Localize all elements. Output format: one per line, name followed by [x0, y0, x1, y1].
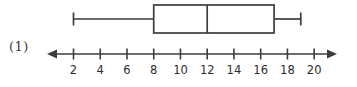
svg-text:14: 14 [227, 63, 242, 77]
svg-text:12: 12 [200, 63, 215, 77]
svg-text:20: 20 [307, 63, 322, 77]
boxplot-canvas: 2468101214161820 [0, 0, 357, 87]
svg-text:16: 16 [253, 63, 268, 77]
svg-text:8: 8 [150, 63, 157, 77]
svg-text:2: 2 [70, 63, 77, 77]
svg-text:18: 18 [280, 63, 295, 77]
svg-text:4: 4 [97, 63, 104, 77]
svg-text:6: 6 [123, 63, 130, 77]
svg-text:10: 10 [173, 63, 188, 77]
boxplot-figure: (1) 2468101214161820 [0, 0, 357, 87]
